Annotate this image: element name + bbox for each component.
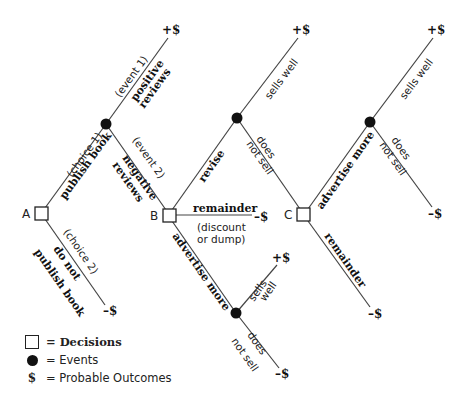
legend-outcomes-label: = Probable Outcomes	[46, 371, 172, 385]
label-or-dump: or dump)	[197, 233, 245, 245]
branch-remainder-c	[308, 221, 370, 307]
label-discount: (discount	[197, 221, 246, 233]
event-node-advertise-c	[365, 117, 376, 128]
branch-sells-well-2	[370, 38, 433, 122]
event-node-reviews	[101, 119, 112, 130]
legend-row-events: = Events	[24, 351, 172, 369]
outcome-remainder-c: –$	[368, 307, 382, 321]
legend: = Decisions = Events $ = Probable Outcom…	[24, 333, 172, 387]
legend-events-label: = Events	[46, 353, 98, 367]
node-label-a: A	[22, 207, 31, 221]
decision-square-icon	[24, 335, 40, 349]
dollar-icon: $	[24, 371, 40, 385]
legend-decisions-label: = Decisions	[46, 335, 122, 349]
label-publish-book: publish book	[57, 129, 115, 201]
label-remainder-c: remainder	[322, 230, 370, 290]
node-label-c: C	[284, 208, 292, 222]
label-advertise-more-c: advertise more	[314, 129, 377, 212]
outcome-advertise-c-sells-well: +$	[427, 23, 445, 37]
outcome-revise-sells-well: +$	[292, 23, 310, 37]
branch-advertise-more-c	[308, 122, 370, 209]
legend-row-decisions: = Decisions	[24, 333, 172, 351]
event-dot-icon	[24, 355, 40, 366]
label-remainder-b: remainder	[193, 202, 257, 215]
decision-node-c	[297, 208, 310, 221]
outcome-advertise-b-does-not-sell: –$	[275, 367, 289, 381]
event-node-advertise-b	[231, 308, 242, 319]
outcome-positive-reviews: +$	[162, 23, 180, 37]
node-label-b: B	[150, 209, 158, 223]
event-node-revise	[232, 113, 243, 124]
outcome-advertise-c-does-not-sell: –$	[428, 207, 442, 221]
decision-node-a	[35, 207, 48, 220]
legend-row-outcomes: $ = Probable Outcomes	[24, 369, 172, 387]
outcome-do-not-publish: –$	[103, 304, 117, 318]
outcome-advertise-b-sells-well: +$	[272, 251, 290, 265]
decision-node-b	[163, 209, 176, 222]
